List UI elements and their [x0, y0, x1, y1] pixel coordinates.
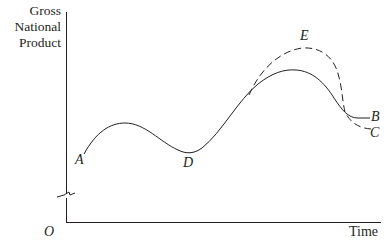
point-label-d: D: [183, 155, 193, 171]
solid-curve: [84, 70, 370, 154]
diagram-canvas: [0, 0, 391, 244]
x-axis-label: Time: [349, 224, 378, 240]
point-label-a: A: [75, 152, 84, 168]
point-label-c: C: [370, 125, 379, 141]
point-label-e: E: [300, 28, 309, 44]
point-label-b: B: [371, 109, 380, 125]
origin-label: O: [44, 224, 54, 240]
